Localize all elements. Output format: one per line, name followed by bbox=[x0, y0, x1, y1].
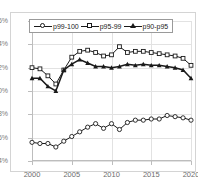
marker-open-square bbox=[46, 74, 50, 78]
marker-open-circle bbox=[78, 130, 82, 134]
marker-open-square bbox=[54, 82, 58, 86]
legend-marker-icon bbox=[81, 22, 99, 30]
series-line bbox=[32, 116, 191, 148]
marker-open-square bbox=[141, 49, 145, 53]
chart-container: 16%14%12%10%8%6%4% 20002005201020152020 … bbox=[0, 0, 198, 184]
marker-open-square bbox=[30, 66, 34, 70]
legend-item-p90-p95[interactable]: p90-p95 bbox=[124, 22, 169, 30]
chart-frame: 16%14%12%10%8%6%4% 20002005201020152020 … bbox=[10, 12, 196, 172]
legend-marker-icon bbox=[124, 22, 142, 30]
marker-open-square bbox=[94, 51, 98, 55]
x-tick-label: 2005 bbox=[59, 171, 85, 179]
marker-open-square bbox=[38, 67, 42, 71]
marker-open-circle bbox=[54, 145, 58, 149]
marker-open-square bbox=[118, 45, 122, 49]
series-p99-100 bbox=[30, 113, 193, 149]
marker-open-square bbox=[86, 48, 90, 52]
marker-open-circle bbox=[133, 118, 137, 122]
marker-open-circle bbox=[109, 122, 113, 126]
marker-open-circle bbox=[101, 126, 105, 130]
marker-open-circle bbox=[94, 122, 98, 126]
x-tick-label: 2010 bbox=[99, 171, 125, 179]
y-tick-label: 12% bbox=[0, 64, 8, 71]
y-tick-label: 10% bbox=[0, 87, 8, 94]
marker-open-square bbox=[126, 51, 130, 55]
marker-open-circle bbox=[70, 134, 74, 138]
marker-open-circle bbox=[117, 127, 121, 131]
legend-marker-icon bbox=[34, 22, 52, 30]
y-tick-label: 16% bbox=[0, 17, 8, 24]
chart-title-strip bbox=[0, 0, 198, 10]
legend-symbol-open-circle-icon bbox=[40, 23, 45, 28]
marker-open-circle bbox=[181, 116, 185, 120]
marker-open-square bbox=[110, 53, 114, 57]
y-tick-label: 8% bbox=[0, 110, 8, 117]
marker-open-square bbox=[157, 52, 161, 56]
marker-open-square bbox=[102, 54, 106, 58]
marker-open-circle bbox=[86, 125, 90, 129]
y-tick-label: 6% bbox=[0, 134, 8, 141]
marker-open-square bbox=[149, 51, 153, 55]
x-tick bbox=[112, 161, 113, 165]
series-p90-p95 bbox=[30, 57, 194, 93]
marker-open-circle bbox=[125, 120, 129, 124]
marker-open-square bbox=[189, 63, 193, 67]
y-tick-label: 4% bbox=[0, 157, 8, 164]
chart-legend: p99-100p95-99p90-p95 bbox=[29, 19, 173, 33]
marker-open-circle bbox=[165, 113, 169, 117]
legend-item-p95-99[interactable]: p95-99 bbox=[81, 22, 122, 30]
x-tick bbox=[32, 161, 33, 165]
marker-open-circle bbox=[173, 115, 177, 119]
x-tick-label: 2020 bbox=[178, 171, 198, 179]
x-tick-label: 2000 bbox=[19, 171, 45, 179]
marker-open-square bbox=[133, 49, 137, 53]
legend-label: p90-p95 bbox=[143, 23, 169, 30]
marker-open-circle bbox=[149, 117, 153, 121]
marker-open-square bbox=[173, 54, 177, 58]
y-tick-label: 14% bbox=[0, 40, 8, 47]
plot-area: 16%14%12%10%8%6%4% 20002005201020152020 bbox=[32, 21, 191, 161]
legend-symbol-open-square-icon bbox=[87, 23, 92, 28]
marker-open-circle bbox=[38, 141, 42, 145]
series-layer bbox=[32, 21, 191, 161]
x-tick bbox=[72, 161, 73, 165]
x-tick-label: 2015 bbox=[138, 171, 164, 179]
legend-label: p95-99 bbox=[100, 23, 122, 30]
marker-open-circle bbox=[30, 140, 34, 144]
marker-open-square bbox=[165, 53, 169, 57]
legend-label: p99-100 bbox=[53, 23, 79, 30]
marker-open-circle bbox=[46, 141, 50, 145]
marker-open-square bbox=[78, 49, 82, 53]
marker-open-circle bbox=[157, 117, 161, 121]
marker-open-circle bbox=[189, 118, 193, 122]
marker-open-circle bbox=[141, 118, 145, 122]
legend-symbol-filled-triangle-icon bbox=[130, 23, 136, 28]
marker-open-square bbox=[70, 55, 74, 59]
marker-filled-triangle bbox=[77, 57, 82, 61]
x-tick bbox=[191, 161, 192, 165]
marker-open-circle bbox=[62, 139, 66, 143]
x-tick bbox=[151, 161, 152, 165]
legend-item-p99-100[interactable]: p99-100 bbox=[34, 22, 79, 30]
marker-open-square bbox=[181, 56, 185, 60]
x-gridline bbox=[191, 21, 192, 161]
